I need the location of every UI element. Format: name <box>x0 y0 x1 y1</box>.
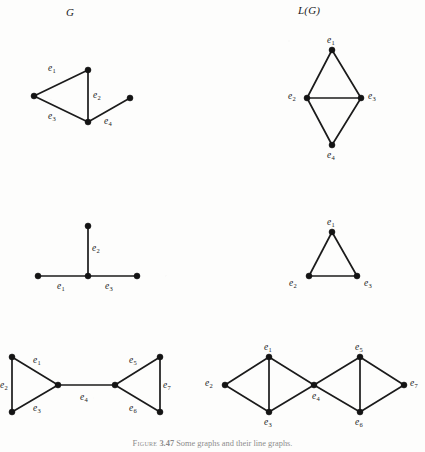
vertex-label: e3 <box>368 92 375 102</box>
caption-number: 3.47 <box>159 439 174 448</box>
edge-label: e2 <box>93 91 100 101</box>
graph-vertex <box>266 354 272 360</box>
graph-edge <box>314 357 360 385</box>
edge-label: e4 <box>104 117 111 127</box>
graph-vertex <box>354 273 360 279</box>
graph-vertex <box>85 67 91 73</box>
edge-label: e2 <box>0 381 7 391</box>
graph-vertex <box>401 382 407 388</box>
vertex-label: e2 <box>288 92 295 102</box>
graph-vertex <box>157 409 163 415</box>
graph-vertex <box>157 354 163 360</box>
vertex-label: e1 <box>264 343 271 353</box>
figure-caption: Figure 3.47 Some graphs and their line g… <box>0 439 425 448</box>
graph-vertex <box>311 382 317 388</box>
edge-label: e1 <box>48 64 55 74</box>
graph-vertex <box>9 409 15 415</box>
edge-label: e3 <box>105 282 112 292</box>
graph-edge <box>307 98 332 145</box>
graph-vertex <box>222 382 228 388</box>
vertex-label: e1 <box>327 36 334 46</box>
graph-vertex <box>127 95 133 101</box>
graph-edge <box>34 70 88 96</box>
graph-vertex <box>329 229 335 235</box>
vertex-label: e2 <box>205 379 212 389</box>
line-graph-lg-row2 <box>306 229 360 279</box>
graph-edge <box>269 385 314 412</box>
figure-3-47: G L(G) e1e2e3e4e1e2e3e4e1e2e3e1e2e3e1e2e… <box>0 0 425 452</box>
graph-edge <box>307 50 332 98</box>
graph-g-row2 <box>35 223 140 279</box>
graph-vertex <box>329 47 335 53</box>
graph-vertex <box>358 95 364 101</box>
graph-vertex <box>266 409 272 415</box>
graph-edge <box>34 96 88 122</box>
edge-label: e6 <box>129 404 136 414</box>
graph-edge <box>332 232 357 276</box>
edge-label: e3 <box>33 404 40 414</box>
edge-label: e3 <box>48 112 55 122</box>
graph-edge <box>225 357 269 385</box>
vertex-label: e5 <box>355 343 362 353</box>
graph-edge <box>115 357 160 385</box>
graph-vertex <box>85 223 91 229</box>
graph-vertex <box>112 382 118 388</box>
edge-label: e2 <box>92 244 99 254</box>
graph-vertex <box>306 273 312 279</box>
graph-vertex <box>55 382 61 388</box>
vertex-label: e6 <box>355 418 362 428</box>
caption-label: Figure <box>133 439 158 448</box>
edge-label: e4 <box>80 393 87 403</box>
edge-label: e7 <box>163 381 170 391</box>
graph-edge <box>225 385 269 412</box>
vertex-label: e4 <box>327 151 334 161</box>
graph-vertex <box>134 273 140 279</box>
caption-text: Some graphs and their line graphs. <box>176 439 292 448</box>
graph-edge <box>115 385 160 412</box>
vertex-label: e3 <box>264 418 271 428</box>
graph-vertex <box>31 93 37 99</box>
vertex-label: e2 <box>289 279 296 289</box>
graph-vertex <box>85 119 91 125</box>
graph-edge <box>360 385 404 412</box>
graph-edge <box>309 232 332 276</box>
graph-edge <box>360 357 404 385</box>
line-graph-lg-row3 <box>222 354 407 415</box>
graph-edge <box>332 50 361 98</box>
graph-edge <box>332 98 361 145</box>
edge-label: e1 <box>33 356 40 366</box>
edge-label: e5 <box>129 356 136 366</box>
vertex-label: e1 <box>327 218 334 228</box>
vertex-label: e4 <box>312 392 319 402</box>
graph-vertex <box>357 409 363 415</box>
graph-edge <box>314 385 360 412</box>
vertex-label: e7 <box>410 379 417 389</box>
graph-vertex <box>9 354 15 360</box>
graph-vertex <box>357 354 363 360</box>
graph-vertex <box>329 142 335 148</box>
graph-edge <box>269 357 314 385</box>
graph-vertex <box>35 273 41 279</box>
graph-g-row1 <box>31 67 133 125</box>
edge-label: e1 <box>57 282 64 292</box>
graph-vertex <box>304 95 310 101</box>
graph-vertex <box>85 273 91 279</box>
vertex-label: e3 <box>364 279 371 289</box>
line-graph-lg-row1 <box>304 47 364 148</box>
